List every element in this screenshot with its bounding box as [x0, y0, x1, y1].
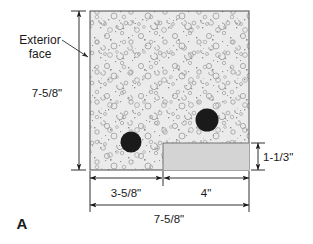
- panel-label: A: [17, 215, 28, 232]
- dimension-label-width-right-segment: 4": [201, 187, 211, 199]
- dimension-label-width-overall: 7-5/8": [154, 213, 184, 225]
- notch-region: [163, 143, 249, 170]
- exterior-face-leader-line: [62, 40, 88, 57]
- dimension-label-height-overall: 7-5/8": [32, 87, 62, 99]
- figure-container: 7-5/8" Exterior face 1-1/3" 3-5/8" 4": [0, 0, 313, 244]
- core-hole-upper-right: [196, 109, 219, 132]
- exterior-face-label-line2: face: [29, 47, 52, 61]
- dimension-label-notch-height: 1-1/3": [263, 151, 293, 163]
- core-hole-lower-left: [121, 132, 142, 153]
- dimension-label-width-left-segment: 3-5/8": [111, 187, 141, 199]
- exterior-face-label-line1: Exterior: [19, 33, 60, 47]
- dimension-height-overall: [71, 11, 86, 170]
- cross-section-drawing: 7-5/8" Exterior face 1-1/3" 3-5/8" 4": [0, 0, 313, 244]
